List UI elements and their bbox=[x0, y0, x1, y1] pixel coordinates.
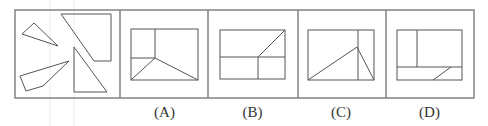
option-c[interactable]: (C) bbox=[308, 30, 374, 121]
option-segment bbox=[131, 58, 155, 80]
option-label: (D) bbox=[419, 104, 440, 121]
piece-small-triangle bbox=[22, 23, 58, 46]
piece-right-triangle bbox=[74, 47, 107, 92]
option-segment bbox=[308, 47, 357, 80]
piece-quadrilateral-bottom-left bbox=[20, 61, 69, 91]
option-rectangle bbox=[397, 30, 462, 80]
option-b[interactable]: (B) bbox=[220, 30, 285, 121]
pieces-panel bbox=[20, 14, 111, 92]
option-label: (C) bbox=[331, 104, 351, 121]
option-label: (B) bbox=[243, 104, 263, 121]
option-segment bbox=[258, 30, 285, 57]
outer-frame bbox=[15, 10, 474, 98]
option-segment bbox=[433, 67, 451, 80]
option-label: (A) bbox=[154, 104, 175, 121]
option-rectangle bbox=[220, 30, 285, 79]
option-rectangle bbox=[131, 29, 198, 80]
option-segment bbox=[155, 58, 198, 80]
puzzle-figure: (A)(B)(C)(D) bbox=[0, 0, 488, 126]
piece-quadrilateral-top-right bbox=[61, 14, 111, 61]
option-a[interactable]: (A) bbox=[131, 29, 198, 121]
option-segment bbox=[357, 47, 374, 80]
options-panel: (A)(B)(C)(D) bbox=[131, 29, 462, 121]
option-d[interactable]: (D) bbox=[397, 30, 462, 121]
option-rectangle bbox=[308, 30, 374, 80]
